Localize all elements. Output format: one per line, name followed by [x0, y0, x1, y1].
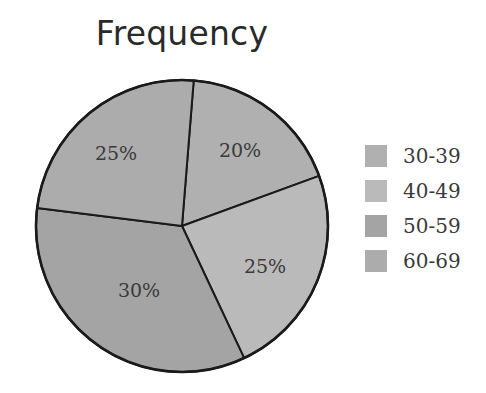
slice-label-60-69: 25%	[95, 142, 137, 164]
legend-swatch	[365, 180, 387, 202]
legend-swatch	[365, 215, 387, 237]
legend-label: 40-49	[403, 179, 461, 203]
legend-item-60-69: 60-69	[365, 243, 461, 278]
legend-label: 50-59	[403, 214, 461, 238]
legend-label: 30-39	[403, 144, 461, 168]
slice-label-30-39: 20%	[219, 139, 261, 161]
legend-item-50-59: 50-59	[365, 208, 461, 243]
legend-swatch	[365, 145, 387, 167]
legend-swatch	[365, 250, 387, 272]
pie-slices	[36, 80, 328, 372]
slice-label-40-49: 25%	[244, 255, 286, 277]
slice-label-50-59: 30%	[118, 279, 160, 301]
legend-label: 60-69	[403, 249, 461, 273]
legend-item-40-49: 40-49	[365, 173, 461, 208]
legend-item-30-39: 30-39	[365, 138, 461, 173]
legend: 30-39 40-49 50-59 60-69	[365, 138, 461, 278]
